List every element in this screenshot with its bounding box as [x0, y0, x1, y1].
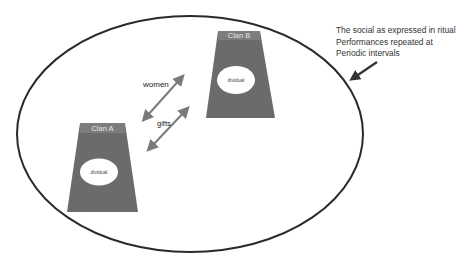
- clan-b-shape: [206, 31, 275, 118]
- gifts-label: gifts: [157, 119, 171, 128]
- annotation-line-3: Periodic intervals: [336, 48, 456, 60]
- clan-a-dividual-label: dividual: [80, 169, 118, 175]
- annotation-text: The social as expressed in ritual Perfor…: [336, 25, 456, 60]
- social-ellipse: [17, 16, 363, 252]
- clan-a-label: Clan A: [80, 124, 125, 133]
- clan-b-label: Clan B: [218, 31, 260, 40]
- clan-a-shape: [67, 123, 138, 212]
- women-label: women: [143, 80, 169, 89]
- clan-b-dividual-label: dividual: [217, 77, 255, 83]
- annotation-line-2: Performances repeated at: [336, 37, 456, 49]
- annotation-line-1: The social as expressed in ritual: [336, 25, 456, 37]
- annotation-pointer-arrow: [352, 62, 377, 79]
